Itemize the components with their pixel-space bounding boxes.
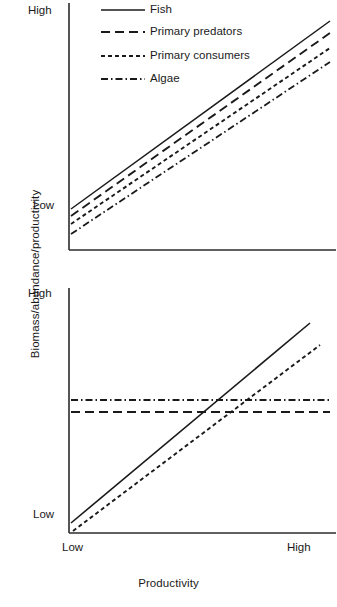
- upper-series-primary-predators: [71, 33, 330, 216]
- lower-series-primary-consumers: [73, 345, 320, 531]
- lower-panel-axes: [69, 288, 336, 533]
- upper-series-fish: [71, 21, 330, 209]
- legend-swatches: [101, 10, 145, 79]
- upper-series-algae: [71, 62, 330, 234]
- upper-panel-axes: [69, 3, 336, 250]
- plot-vector-layer: [0, 0, 337, 607]
- lower-series-fish: [71, 323, 310, 523]
- figure-root: Biomass/abundance/productivity High Low …: [0, 0, 337, 607]
- upper-panel-series: [71, 21, 330, 234]
- upper-series-primary-consumers: [71, 48, 330, 224]
- lower-panel-series: [71, 323, 330, 531]
